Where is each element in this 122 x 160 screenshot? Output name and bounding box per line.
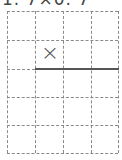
grid-line-v	[35, 11, 36, 153]
problem-title: 1. 7×0. 7	[2, 0, 90, 9]
grid-line-v	[91, 11, 92, 153]
multiply-sign: ×	[39, 41, 61, 65]
grid-line-v	[63, 11, 64, 153]
grid-line-h	[7, 153, 118, 154]
result-underline	[35, 68, 119, 70]
grid-line-h	[7, 69, 35, 70]
grid-line-v	[7, 11, 8, 153]
grid-line-v	[118, 11, 119, 153]
